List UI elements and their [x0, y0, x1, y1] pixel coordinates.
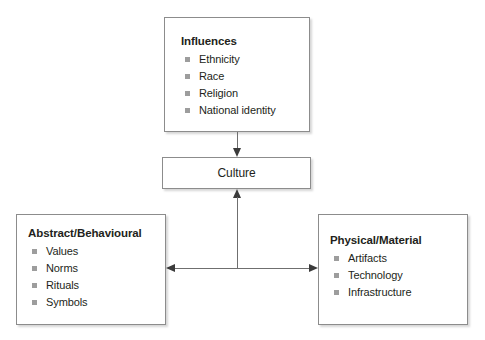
bullet-square-icon — [185, 57, 190, 62]
node-abstract-title: Abstract/Behavioural — [28, 226, 142, 240]
list-item: Values — [28, 243, 142, 260]
list-item: Norms — [28, 260, 142, 277]
connector-abstract-physical — [175, 268, 309, 269]
arrowhead-down-icon — [233, 148, 241, 157]
node-influences-title: Influences — [181, 34, 276, 48]
list-item-label: National identity — [199, 102, 276, 119]
node-physical-content: Physical/Material Artifacts Technology I… — [330, 233, 422, 301]
bullet-square-icon — [185, 108, 190, 113]
diagram-canvas: Influences Ethnicity Race Religion Natio… — [0, 0, 485, 340]
node-influences-list: Ethnicity Race Religion National identit… — [181, 51, 276, 119]
list-item: Rituals — [28, 277, 142, 294]
bullet-square-icon — [32, 249, 37, 254]
list-item: Artifacts — [330, 250, 422, 267]
list-item: Race — [181, 68, 276, 85]
bullet-square-icon — [334, 256, 339, 261]
node-culture: Culture — [162, 157, 311, 189]
node-physical-list: Artifacts Technology Infrastructure — [330, 250, 422, 301]
bullet-square-icon — [334, 290, 339, 295]
list-item-label: Norms — [46, 260, 78, 277]
bullet-square-icon — [32, 283, 37, 288]
list-item-label: Rituals — [46, 277, 79, 294]
node-culture-label: Culture — [218, 166, 256, 180]
node-abstract-list: Values Norms Rituals Symbols — [28, 243, 142, 311]
bullet-square-icon — [32, 300, 37, 305]
list-item: Symbols — [28, 294, 142, 311]
list-item: Ethnicity — [181, 51, 276, 68]
connector-influences-to-culture — [237, 132, 238, 149]
node-physical-material: Physical/Material Artifacts Technology I… — [318, 214, 468, 325]
list-item-label: Race — [199, 68, 224, 85]
list-item-label: Values — [46, 243, 78, 260]
arrowhead-right-icon — [309, 264, 318, 272]
list-item-label: Symbols — [46, 294, 87, 311]
list-item-label: Artifacts — [348, 250, 387, 267]
list-item-label: Ethnicity — [199, 51, 240, 68]
list-item: Technology — [330, 267, 422, 284]
list-item: National identity — [181, 102, 276, 119]
node-abstract-behavioural: Abstract/Behavioural Values Norms Ritual… — [16, 214, 166, 325]
list-item-label: Infrastructure — [348, 284, 411, 301]
list-item-label: Technology — [348, 267, 403, 284]
connector-components-to-culture — [237, 197, 238, 268]
list-item: Infrastructure — [330, 284, 422, 301]
list-item: Religion — [181, 85, 276, 102]
list-item-label: Religion — [199, 85, 238, 102]
arrowhead-left-icon — [166, 264, 175, 272]
bullet-square-icon — [185, 91, 190, 96]
bullet-square-icon — [32, 266, 37, 271]
node-influences: Influences Ethnicity Race Religion Natio… — [164, 17, 310, 132]
bullet-square-icon — [185, 74, 190, 79]
node-physical-title: Physical/Material — [330, 233, 422, 247]
bullet-square-icon — [334, 273, 339, 278]
node-influences-content: Influences Ethnicity Race Religion Natio… — [181, 34, 276, 119]
node-abstract-content: Abstract/Behavioural Values Norms Ritual… — [28, 226, 142, 311]
